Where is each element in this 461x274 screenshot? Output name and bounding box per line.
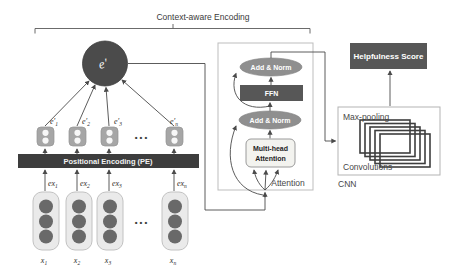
context-vector-circle: e′ (83, 41, 128, 86)
svg-text:ex1: ex1 (48, 179, 58, 189)
input-vector (33, 192, 59, 250)
input-vector (97, 192, 123, 250)
input-vector (66, 192, 92, 250)
multi-head-attention-block: Multi-head Attention (246, 139, 295, 167)
svg-text:xn: xn (169, 256, 177, 266)
convolutions-label: Convolutions (343, 162, 392, 172)
svg-text:e′2: e′2 (82, 117, 90, 127)
svg-text:ex2: ex2 (80, 179, 90, 189)
embedding-square (101, 127, 118, 146)
svg-text:x2: x2 (73, 256, 81, 266)
helpfulness-score-block: Helpfulness Score (350, 43, 427, 69)
ellipsis-vectors: ••• (135, 218, 149, 227)
add-norm-top-label: Add & Norm (251, 64, 292, 71)
input-vector (162, 192, 188, 250)
embedding-square (166, 127, 183, 146)
cnn-box-label: CNN (338, 179, 356, 189)
attention-box: Attention Add & Norm FFN Add & Norm (218, 43, 313, 195)
ffn-block: FFN (240, 85, 303, 101)
helpfulness-score-label: Helpfulness Score (354, 52, 424, 61)
mha-label-line2: Attention (255, 155, 286, 162)
architecture-diagram: Context-aware Encoding e′ e′1 e′2 e′3 e′… (0, 0, 461, 274)
svg-text:e′3: e′3 (114, 117, 122, 127)
svg-text:x3: x3 (104, 256, 112, 266)
input-vectors: ••• (33, 192, 188, 250)
attention-box-label: Attention (271, 178, 305, 188)
aggregation-arrows (45, 80, 174, 126)
embedding-square (69, 127, 86, 146)
positional-encoding-label: Positional Encoding (PE) (63, 157, 153, 166)
embedding-square (37, 127, 54, 146)
input-token-labels: x1 x2 x3 xn (40, 256, 177, 266)
context-encoding-bracket: Context-aware Encoding (35, 12, 310, 34)
svg-text:x1: x1 (40, 256, 48, 266)
ffn-label: FFN (265, 90, 279, 97)
cnn-box: Max-pooling Convolutions (338, 107, 440, 175)
word-embedding-labels: ex1 ex2 ex3 exn (48, 179, 187, 189)
svg-text:ex3: ex3 (112, 179, 122, 189)
add-norm-bottom-block: Add & Norm (239, 111, 301, 129)
svg-text:e′n: e′n (170, 117, 178, 127)
svg-text:e′1: e′1 (50, 117, 58, 127)
svg-text:exn: exn (177, 179, 187, 189)
vector-to-pe-arrows (45, 170, 174, 191)
add-norm-top-block: Add & Norm (240, 58, 302, 76)
encoded-token-labels: e′1 e′2 e′3 e′n (50, 117, 178, 127)
positional-encoding-bar: Positional Encoding (PE) (18, 154, 199, 168)
ellipsis-squares: ••• (135, 133, 149, 142)
context-encoding-title: Context-aware Encoding (156, 12, 249, 22)
add-norm-bottom-label: Add & Norm (250, 117, 291, 124)
mha-label-line1: Multi-head (253, 145, 288, 152)
embedding-squares: ••• (37, 127, 183, 146)
